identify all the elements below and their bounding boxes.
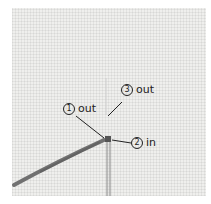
label-1-text: out — [78, 102, 96, 115]
leader-line-2 — [112, 140, 131, 143]
leader-line-1 — [76, 116, 104, 138]
leader-line-3 — [108, 102, 122, 116]
label-1-out: 1out — [63, 103, 96, 115]
label-2-in: 2in — [131, 137, 156, 149]
circled-number-1: 1 — [63, 103, 75, 115]
circled-number-3: 3 — [121, 84, 133, 96]
circled-number-2: 2 — [131, 137, 143, 149]
label-3-out: 3out — [121, 84, 154, 96]
thread-shadow — [40, 142, 100, 172]
stitch-diagram — [0, 0, 211, 204]
label-3-text: out — [136, 83, 154, 96]
label-2-text: in — [146, 136, 156, 149]
stitch-point — [105, 136, 111, 142]
